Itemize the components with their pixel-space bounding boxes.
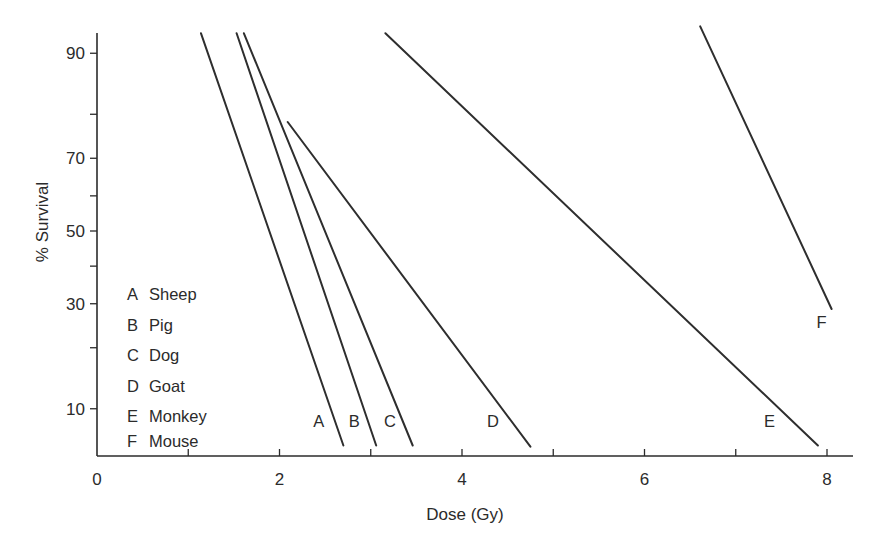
- series-label-b: B: [349, 412, 360, 430]
- series-label-c: C: [384, 412, 396, 430]
- series-line-d: [288, 122, 531, 447]
- legend-label-dog: Dog: [149, 346, 179, 364]
- y-tick-label: 50: [66, 222, 85, 241]
- series-label-a: A: [313, 412, 324, 430]
- x-tick-label: 4: [457, 470, 466, 489]
- x-tick-label: 2: [275, 470, 284, 489]
- series-line-c: [244, 33, 413, 445]
- series-line-f: [700, 26, 831, 309]
- x-tick-label: 8: [822, 470, 831, 489]
- x-ticks: 02468: [92, 449, 831, 489]
- dose-survival-chart: 02468 1030507090 ABCDEF ASheepBPigCDogDG…: [0, 0, 887, 550]
- legend-label-monkey: Monkey: [149, 407, 208, 425]
- x-tick-label: 0: [92, 470, 101, 489]
- y-axis-title: % Survival: [33, 182, 52, 262]
- x-tick-label: 6: [640, 470, 649, 489]
- y-tick-label: 70: [66, 149, 85, 168]
- legend-key-a: A: [127, 285, 138, 303]
- series-labels: ABCDEF: [313, 313, 826, 430]
- series-line-e: [385, 33, 818, 445]
- series-label-d: D: [487, 412, 499, 430]
- y-tick-label: 90: [66, 44, 85, 63]
- y-tick-label: 30: [66, 295, 85, 314]
- y-tick-label: 10: [66, 400, 85, 419]
- series-label-e: E: [764, 412, 775, 430]
- legend-key-d: D: [127, 377, 139, 395]
- legend-key-c: C: [127, 346, 139, 364]
- legend: ASheepBPigCDogDGoatEMonkeyFMouse: [127, 285, 208, 450]
- legend-key-f: F: [127, 432, 137, 450]
- legend-label-goat: Goat: [149, 377, 185, 395]
- x-axis-title: Dose (Gy): [426, 505, 503, 524]
- series-line-b: [237, 33, 377, 445]
- axes: [97, 33, 853, 456]
- legend-key-e: E: [127, 407, 138, 425]
- series-lines: [201, 26, 832, 446]
- series-label-f: F: [816, 313, 826, 331]
- series-line-a: [201, 33, 343, 445]
- legend-key-b: B: [127, 316, 138, 334]
- legend-label-pig: Pig: [149, 316, 173, 334]
- legend-label-mouse: Mouse: [149, 432, 199, 450]
- y-ticks: 1030507090: [66, 44, 97, 419]
- legend-label-sheep: Sheep: [149, 285, 197, 303]
